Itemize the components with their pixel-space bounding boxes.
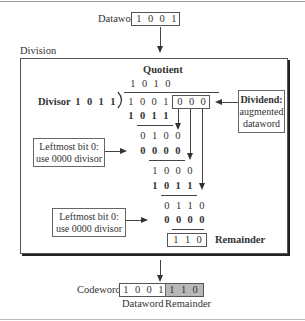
note-arrow-line-2 <box>126 220 141 221</box>
divisor-bits: 1011 <box>72 96 119 108</box>
step-row: 1000 <box>149 165 196 177</box>
arrowhead-right-icon <box>141 217 148 223</box>
quotient-rule <box>124 92 219 93</box>
step-row: 0100 <box>137 130 184 142</box>
step-rule <box>149 160 185 161</box>
codeword-remainder-caption: Remainder <box>165 298 211 310</box>
dividend-arrow-line <box>222 102 238 103</box>
bring-down-line-3 <box>202 109 203 184</box>
step-rule <box>172 229 204 230</box>
dividend-bits: 1001 <box>125 96 172 108</box>
dividend-note: Dividend: augmented dataword <box>238 90 285 133</box>
bottom-rule <box>0 319 305 320</box>
division-label: Division <box>20 45 56 57</box>
arrow-down-icon <box>160 260 161 276</box>
codeword-box: 1001 110 <box>119 283 204 297</box>
quotient-label: Quotient <box>143 64 183 76</box>
step-row: 1011 <box>125 110 172 122</box>
leftmost-bit-note-2: Leftmost bit 0: use 0000 divisor <box>52 208 126 237</box>
note-arrow-line-1 <box>105 151 120 152</box>
dataword-box: 1001 <box>131 12 180 26</box>
codeword-label: Codeword <box>77 284 121 296</box>
arrowhead-down-icon <box>175 123 181 130</box>
arrowhead-right-icon <box>120 148 127 154</box>
arrowhead-down-icon <box>157 46 163 53</box>
arrow-down-icon <box>160 27 161 47</box>
bring-down-line-2 <box>190 109 191 154</box>
dataword-bit: 0 <box>145 13 157 25</box>
remainder-label: Remainder <box>215 234 265 246</box>
dataword-bit: 0 <box>156 13 168 25</box>
step-row: 0000 <box>137 145 184 157</box>
bring-down-line-1 <box>178 109 179 124</box>
step-row: 0000 <box>161 214 208 226</box>
step-row: 0110 <box>161 200 208 212</box>
step-row: 1011 <box>149 180 196 192</box>
top-rule <box>0 1 305 2</box>
arrowhead-down-icon <box>187 153 193 160</box>
divisor-label: Divisor <box>38 96 71 108</box>
step-rule <box>137 125 173 126</box>
remainder-box: 110 <box>167 233 207 247</box>
augmented-bits-box: 000 <box>172 95 210 109</box>
arrowhead-down-icon <box>157 275 163 282</box>
leftmost-bit-note-1: Leftmost bit 0: use 0000 divisor <box>33 138 105 167</box>
arrowhead-left-icon <box>215 99 222 105</box>
arrowhead-down-icon <box>199 183 205 190</box>
quotient-bits: 1010 <box>127 78 174 90</box>
dataword-bit: 1 <box>133 13 145 25</box>
dataword-bit: 1 <box>168 13 180 25</box>
step-rule <box>161 195 197 196</box>
codeword-dataword-caption: Dataword <box>122 298 163 310</box>
